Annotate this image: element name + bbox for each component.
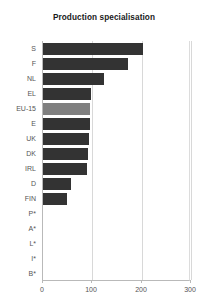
bar-row xyxy=(43,133,191,145)
y-axis-tick-label: F xyxy=(32,60,36,68)
bar-row xyxy=(43,178,191,190)
y-axis-tick-label: L* xyxy=(29,240,36,248)
x-axis-tick-label: 100 xyxy=(85,286,97,293)
gridline-300 xyxy=(191,41,192,280)
y-axis-tick-label: FIN xyxy=(25,195,36,203)
x-axis-tickmark xyxy=(141,280,142,283)
bar-S[interactable] xyxy=(43,43,143,55)
y-axis-tick-label: EU-15 xyxy=(16,105,36,113)
y-axis-tick-label: EL xyxy=(27,90,36,98)
bar-E[interactable] xyxy=(43,118,90,130)
bar-NL[interactable] xyxy=(43,73,104,85)
x-axis-labels: 0100200300 xyxy=(0,286,208,300)
bar-row xyxy=(43,118,191,130)
x-axis-tick-label: 0 xyxy=(40,286,44,293)
bar-row xyxy=(43,193,191,205)
y-axis-tick-label: P* xyxy=(29,210,36,218)
bar-EU-15[interactable] xyxy=(43,103,90,115)
y-axis-tick-label: A* xyxy=(29,225,36,233)
y-axis-labels: SFNLELEU-15EUKDKIRLDFINP*A*L*I*B* xyxy=(0,41,40,281)
bar-row xyxy=(43,163,191,175)
bar-D[interactable] xyxy=(43,178,71,190)
bar-row xyxy=(43,73,191,85)
x-axis-tick-label: 200 xyxy=(135,286,147,293)
x-axis-tick-label: 300 xyxy=(184,286,196,293)
bars-container xyxy=(43,41,189,280)
y-axis-tick-label: S xyxy=(31,45,36,53)
bar-chart: Production specialisation SFNLELEU-15EUK… xyxy=(0,0,208,306)
bar-row xyxy=(43,103,191,115)
bar-row xyxy=(43,58,191,70)
bar-IRL[interactable] xyxy=(43,163,87,175)
bar-row xyxy=(43,148,191,160)
chart-title: Production specialisation xyxy=(0,13,208,22)
bar-row xyxy=(43,88,191,100)
plot-area xyxy=(42,41,190,281)
bar-EL[interactable] xyxy=(43,88,91,100)
bar-row xyxy=(43,43,191,55)
y-axis-tick-label: DK xyxy=(26,150,36,158)
x-axis-tickmark xyxy=(91,280,92,283)
x-axis-tickmark xyxy=(190,280,191,283)
bar-UK[interactable] xyxy=(43,133,89,145)
y-axis-tick-label: I* xyxy=(31,255,36,263)
bar-DK[interactable] xyxy=(43,148,88,160)
y-axis-tick-label: NL xyxy=(27,75,36,83)
y-axis-tick-label: D xyxy=(31,180,36,188)
y-axis-tick-label: IRL xyxy=(25,165,36,173)
x-axis-tickmark xyxy=(42,280,43,283)
y-axis-tick-label: E xyxy=(31,120,36,128)
y-axis-tick-label: B* xyxy=(29,270,36,278)
y-axis-tick-label: UK xyxy=(26,135,36,143)
bar-FIN[interactable] xyxy=(43,193,67,205)
bar-F[interactable] xyxy=(43,58,128,70)
